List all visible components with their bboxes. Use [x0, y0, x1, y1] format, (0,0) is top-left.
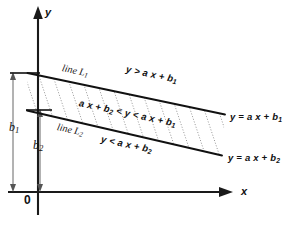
x-axis-label: x [241, 186, 247, 197]
b1-arrow-bottom [10, 184, 16, 192]
line-L2-equation-label: y = a x + b2 [228, 153, 280, 164]
line-L2-equation-sub: 2 [276, 157, 280, 164]
b2-intercept-sub: 2 [39, 143, 43, 153]
hatch-stroke [172, 55, 212, 175]
y-axis-arrowhead [33, 6, 43, 19]
line-L2-equation-text: y = a x + b [228, 152, 276, 163]
hatch-stroke [186, 55, 226, 175]
line-L1-equation-text: y = a x + b [230, 111, 278, 122]
b1-intercept-label: b1 [9, 121, 19, 135]
line-L1-equation-label: y = a x + b1 [230, 112, 282, 123]
figure-container: y x 0 b1 b2 line L1 line L2 y > a x + b1… [0, 0, 303, 225]
y-axis-label: y [45, 7, 51, 18]
x-axis [8, 187, 233, 197]
line-L1-equation-sub: 1 [278, 116, 282, 123]
x-axis-arrowhead [219, 187, 233, 197]
b2-intercept-label: b2 [33, 139, 43, 153]
b1-intercept-sub: 1 [15, 125, 19, 135]
origin-label: 0 [24, 194, 31, 206]
